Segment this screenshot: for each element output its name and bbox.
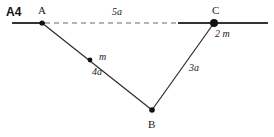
problem-number: A4 [6,6,22,18]
point-b-dot [149,107,155,113]
figure-canvas: A4 A B C m 2 m 4a 3a 5a [0,0,274,137]
figure-drawing [0,0,274,137]
label-length-bc: 3a [189,63,199,73]
label-mass-2m: 2 m [215,29,230,39]
segment-bc [152,23,214,110]
label-mass-m: m [99,52,106,62]
label-length-ab: 4a [92,67,102,77]
point-c-dot [210,19,218,27]
label-length-ac: 5a [112,7,122,17]
point-m-dot [88,58,93,63]
label-point-a: A [38,5,46,16]
label-point-b: B [148,119,155,130]
point-a-dot [39,20,44,25]
label-point-c: C [212,5,219,16]
